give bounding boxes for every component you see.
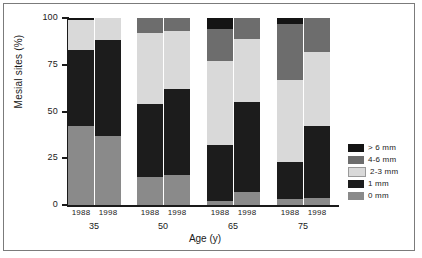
x-axis-label: Age (y) <box>150 233 260 244</box>
bar-35-1988[interactable] <box>68 18 94 205</box>
legend-swatch-icon <box>348 144 364 152</box>
bar-segment-65-1988-0-mm <box>207 201 233 205</box>
bar-segment-75-1988-4-6-mm <box>277 24 303 80</box>
bar-segment-35-1998-1-mm <box>95 40 121 135</box>
bar-segment-65-1998-1-mm <box>234 102 260 192</box>
age-group-label-65: 65 <box>206 221 260 231</box>
bar-65-1988[interactable] <box>207 18 233 205</box>
legend-label: > 6 mm <box>368 143 396 152</box>
bar-segment-75-1998-2-3-mm <box>304 52 330 127</box>
bar-segment-65-1998-4-6-mm <box>234 18 260 39</box>
legend-swatch-icon <box>348 192 364 200</box>
bar-35-1998[interactable] <box>95 18 121 205</box>
y-tick-label-0: 0 <box>14 199 58 209</box>
bar-segment-65-1988--6-mm <box>207 18 233 29</box>
x-axis-line <box>67 205 339 207</box>
x-tick-label-65-1998: 1998 <box>230 208 264 217</box>
bar-segment-50-1998-2-3-mm <box>164 31 190 89</box>
bar-segment-75-1998-4-6-mm <box>304 18 330 52</box>
legend-label: 2-3 mm <box>370 167 398 176</box>
bar-segment-65-1998-2-3-mm <box>234 39 260 103</box>
bar-segment-50-1998-4-6-mm <box>164 18 190 31</box>
bar-segment-65-1998-0-mm <box>234 192 260 205</box>
legend-item--6-mm[interactable]: > 6 mm <box>348 142 410 153</box>
legend-item-4-6-mm[interactable]: 4-6 mm <box>348 154 410 165</box>
y-tick-label-25: 25 <box>14 152 58 162</box>
plot-area <box>68 18 338 205</box>
bar-50-1998[interactable] <box>164 18 190 205</box>
bar-segment-75-1998-1-mm <box>304 126 330 197</box>
bar-50-1988[interactable] <box>137 18 163 205</box>
bar-65-1998[interactable] <box>234 18 260 205</box>
legend-item-2-3-mm[interactable]: 2-3 mm <box>348 166 410 177</box>
bar-group-75 <box>277 18 330 205</box>
age-group-label-50: 50 <box>136 221 190 231</box>
age-group-label-35: 35 <box>67 221 121 231</box>
figure: 1007550250 Mesial sites (%) 198819983519… <box>0 0 422 258</box>
legend-label: 4-6 mm <box>368 155 396 164</box>
bar-segment-50-1988-2-3-mm <box>137 33 163 104</box>
bar-segment-50-1998-1-mm <box>164 89 190 175</box>
bar-segment-65-1988-1-mm <box>207 145 233 201</box>
y-axis-label: Mesial sites (%) <box>13 12 24 132</box>
legend-item-0-mm[interactable]: 0 mm <box>348 190 410 201</box>
legend-label: 1 mm <box>368 179 389 188</box>
legend-swatch-icon <box>348 180 364 188</box>
bar-75-1988[interactable] <box>277 18 303 205</box>
bar-group-50 <box>137 18 190 205</box>
legend-label: 0 mm <box>368 191 389 200</box>
bar-segment-50-1988-0-mm <box>137 177 163 205</box>
x-tick-label-50-1998: 1998 <box>160 208 194 217</box>
bar-75-1998[interactable] <box>304 18 330 205</box>
bar-segment-65-1988-2-3-mm <box>207 61 233 145</box>
legend-swatch-icon <box>348 156 364 164</box>
bar-segment-35-1988-0-mm <box>68 126 94 205</box>
x-tick-label-75-1998: 1998 <box>300 208 334 217</box>
legend: > 6 mm4-6 mm2-3 mm1 mm0 mm <box>348 142 410 202</box>
bar-segment-75-1988-1-mm <box>277 162 303 199</box>
legend-item-1-mm[interactable]: 1 mm <box>348 178 410 189</box>
bar-segment-75-1998-0-mm <box>304 198 330 205</box>
x-tick-label-35-1998: 1998 <box>91 208 125 217</box>
bar-segment-50-1998-0-mm <box>164 175 190 205</box>
age-group-label-75: 75 <box>276 221 330 231</box>
bar-segment-65-1988-4-6-mm <box>207 29 233 61</box>
bar-segment-35-1988-1-mm <box>68 50 94 127</box>
bar-segment-35-1988-2-3-mm <box>68 20 94 50</box>
bar-group-35 <box>68 18 121 205</box>
bar-segment-75-1988-2-3-mm <box>277 80 303 162</box>
bar-segment-50-1988-4-6-mm <box>137 18 163 33</box>
legend-swatch-icon <box>348 167 366 177</box>
bar-segment-75-1988-0-mm <box>277 199 303 205</box>
bar-segment-35-1998-0-mm <box>95 136 121 205</box>
bar-group-65 <box>207 18 260 205</box>
bar-segment-50-1988-1-mm <box>137 104 163 177</box>
bar-segment-35-1998-2-3-mm <box>95 18 121 40</box>
